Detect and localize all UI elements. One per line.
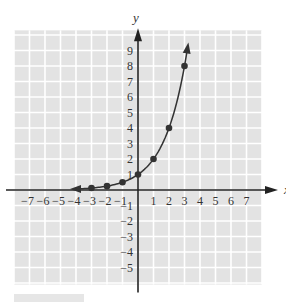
x-axis-label: x (283, 182, 286, 197)
x-axis-arrow-icon (265, 186, 278, 194)
data-point (135, 171, 142, 178)
exponential-graph: −7−6−5−4−3−2−11234567−5−4−3−2−1123456789… (0, 0, 286, 302)
y-tick-label: −5 (120, 261, 133, 275)
y-tick-label: 9 (127, 44, 133, 58)
x-tick-label: −3 (83, 194, 96, 208)
y-tick-label: 7 (127, 75, 133, 89)
x-tick-label: −4 (68, 194, 81, 208)
y-tick-label: 6 (127, 90, 133, 104)
x-tick-label: −2 (99, 194, 112, 208)
data-point (166, 125, 173, 132)
x-tick-label: −6 (37, 194, 50, 208)
figure-caption-cutoff (14, 294, 84, 302)
y-axis-label: y (131, 10, 139, 25)
y-tick-label: −3 (120, 230, 133, 244)
y-tick-label: 2 (127, 152, 133, 166)
x-tick-label: 6 (228, 194, 234, 208)
x-tick-label: 2 (166, 194, 172, 208)
data-point (88, 185, 95, 192)
x-tick-label: 5 (213, 194, 219, 208)
x-tick-label: −7 (21, 194, 34, 208)
y-tick-label: 8 (127, 59, 133, 73)
y-tick-label: −2 (120, 214, 133, 228)
x-tick-label: 4 (197, 194, 203, 208)
y-tick-label: 3 (127, 137, 133, 151)
data-point (150, 156, 157, 163)
y-tick-label: −1 (120, 199, 133, 213)
x-tick-label: 1 (151, 194, 157, 208)
x-tick-label: 3 (182, 194, 188, 208)
y-tick-label: 5 (127, 106, 133, 120)
x-tick-label: −5 (52, 194, 65, 208)
y-tick-label: 4 (127, 121, 133, 135)
data-point (181, 63, 188, 70)
x-tick-label: 7 (244, 194, 250, 208)
data-point (119, 179, 126, 186)
y-tick-label: −4 (120, 245, 133, 259)
data-point (104, 183, 111, 190)
